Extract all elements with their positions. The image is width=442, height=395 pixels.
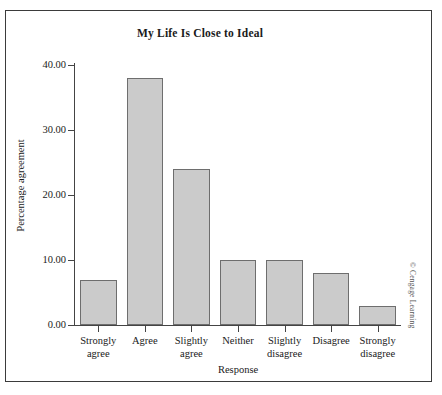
x-axis-category-label-line: agree	[160, 347, 223, 360]
x-axis-category-label-line: disagree	[253, 347, 316, 360]
y-axis-tick-label-text: 10.00	[20, 254, 66, 265]
x-axis-category-label-line: disagree	[346, 347, 409, 360]
x-axis-tick	[285, 326, 286, 332]
x-axis-category-label-line: agree	[67, 347, 130, 360]
bar[interactable]	[359, 306, 396, 326]
y-axis-tick	[68, 65, 75, 66]
bar-slot	[261, 65, 308, 325]
x-axis-tick	[191, 326, 192, 332]
bar[interactable]	[220, 260, 257, 325]
y-axis-tick-label-text: 20.00	[20, 189, 66, 200]
x-axis-tick	[238, 326, 239, 332]
bar-slot	[215, 65, 262, 325]
bar-slot	[122, 65, 169, 325]
y-axis-title: Percentage agreement	[15, 121, 26, 251]
y-axis-tick-label-text: 40.00	[20, 59, 66, 70]
y-axis-tick-label: 0.00	[14, 319, 66, 331]
x-axis-tick	[331, 326, 332, 332]
x-axis-title: Response	[75, 364, 401, 375]
y-axis-tick	[68, 260, 75, 261]
x-axis-tick	[378, 326, 379, 332]
x-axis-category-label: Stronglydisagree	[346, 334, 409, 360]
chart-title: My Life Is Close to Ideal	[0, 27, 400, 39]
y-axis-tick	[68, 195, 75, 196]
x-axis-tick	[98, 326, 99, 332]
y-axis-tick-label: 10.00	[14, 254, 66, 266]
bar-series	[75, 65, 401, 325]
y-axis-tick-label-text: 30.00	[20, 124, 66, 135]
y-axis-tick	[68, 130, 75, 131]
bar-slot	[75, 65, 122, 325]
bar[interactable]	[313, 273, 350, 325]
chart-figure: My Life Is Close to Ideal 0.0010.0020.00…	[0, 0, 442, 395]
y-axis-tick-label: 40.00	[14, 59, 66, 71]
x-axis-category-label-line: Strongly	[346, 334, 409, 347]
bar-slot	[354, 65, 401, 325]
y-axis-tick	[68, 325, 75, 326]
bar-slot	[168, 65, 215, 325]
bar-slot	[308, 65, 355, 325]
bar[interactable]	[127, 78, 164, 325]
bar[interactable]	[80, 280, 117, 326]
x-axis-tick	[145, 326, 146, 332]
y-axis-tick-label-text: 0.00	[20, 319, 66, 330]
copyright-credit: © Cengage Learning	[408, 262, 417, 382]
bar[interactable]	[266, 260, 303, 325]
bar[interactable]	[173, 169, 210, 325]
